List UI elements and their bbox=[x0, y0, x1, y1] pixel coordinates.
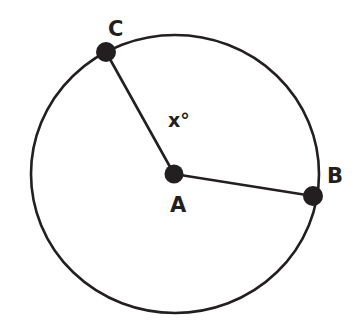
radius-segment-ab bbox=[174, 174, 313, 196]
point-dot-a bbox=[165, 165, 184, 184]
point-label-a: A bbox=[170, 195, 186, 216]
point-dot-c bbox=[96, 42, 116, 62]
central-angle-label: x° bbox=[168, 111, 190, 130]
radius-segment-ac bbox=[106, 52, 174, 174]
point-label-b: B bbox=[327, 166, 343, 187]
point-dot-b bbox=[303, 186, 323, 206]
circle-diagram-figure: C B A x° bbox=[0, 0, 355, 329]
geometry-canvas bbox=[0, 0, 355, 329]
point-label-c: C bbox=[108, 19, 123, 40]
